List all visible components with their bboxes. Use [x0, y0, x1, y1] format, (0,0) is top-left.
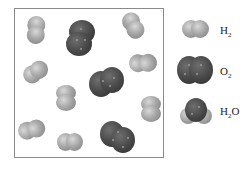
legend-label-h2: H2 — [220, 24, 231, 39]
o2-molecule — [66, 20, 96, 56]
legend-label-o2: O2 — [220, 65, 231, 80]
h2-molecule — [57, 132, 83, 152]
legend-label-h2o: H2O — [220, 105, 239, 120]
legend-h2-molecule — [182, 19, 210, 39]
legend-o2-molecule — [177, 56, 213, 84]
o2-molecule — [100, 121, 136, 153]
o2-molecule — [89, 67, 125, 97]
h2-molecule — [140, 96, 162, 122]
legend-h2o-molecule — [180, 98, 212, 126]
h2-molecule — [55, 85, 77, 111]
